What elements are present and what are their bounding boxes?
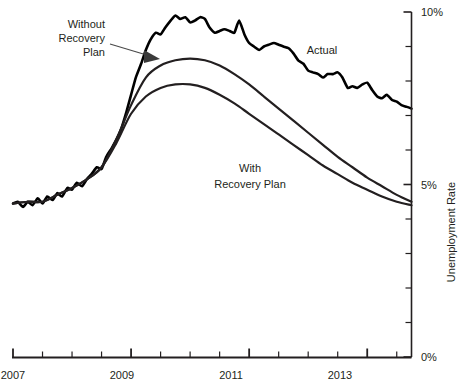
- axes-layer: [12, 12, 412, 358]
- y-axis-ticks: [404, 12, 412, 357]
- series-layer: [13, 15, 412, 206]
- x-tick-label-2011: 2011: [219, 369, 243, 381]
- y-tick-label-10: 10%: [421, 6, 443, 18]
- series-line-actual: [13, 15, 412, 206]
- x-tick-label-2009: 2009: [110, 369, 134, 381]
- actual-label: Actual: [307, 44, 338, 56]
- with-recovery-plan-label-line2: Recovery Plan: [214, 178, 286, 190]
- without-recovery-plan-annotation: Without Recovery Plan: [59, 18, 160, 63]
- y-axis-title: Unemployment Rate: [445, 182, 457, 282]
- with-recovery-plan-annotation: With Recovery Plan: [214, 162, 286, 190]
- x-tick-label-2007: 2007: [1, 369, 25, 381]
- with-recovery-plan-label-line1: With: [239, 162, 261, 174]
- actual-annotation: Actual: [307, 44, 338, 56]
- without-recovery-plan-label-line1: Without: [68, 18, 105, 30]
- x-axis-ticks: [13, 349, 397, 358]
- without-recovery-plan-label-line3: Plan: [83, 46, 105, 58]
- unemployment-rate-chart: 10% 5% 0% 2007 2009 2011 2013 Unemployme…: [0, 0, 462, 387]
- y-tick-label-5: 5%: [421, 179, 437, 191]
- y-tick-label-0: 0%: [421, 351, 437, 363]
- without-recovery-plan-label-line2: Recovery: [59, 32, 106, 44]
- chart-container: 10% 5% 0% 2007 2009 2011 2013 Unemployme…: [0, 0, 462, 387]
- series-line-with-recovery-plan: [13, 84, 412, 205]
- annotation-arrow-icon: [144, 50, 160, 63]
- x-tick-label-2013: 2013: [328, 369, 352, 381]
